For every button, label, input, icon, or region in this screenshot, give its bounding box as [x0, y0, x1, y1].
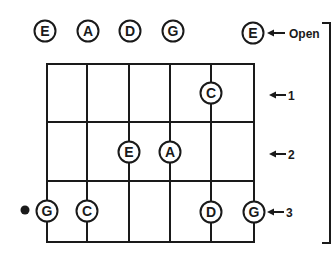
svg-text:G: G: [249, 204, 260, 220]
svg-text:G: G: [168, 23, 179, 39]
svg-text:G: G: [42, 203, 53, 219]
fret2-note-a: A: [160, 142, 181, 163]
fret1-note-c: C: [201, 83, 222, 104]
svg-text:A: A: [83, 23, 93, 39]
svg-text:D: D: [125, 23, 135, 39]
label-open: Open: [289, 27, 320, 41]
svg-text:C: C: [82, 203, 92, 219]
open-note-a: A: [78, 21, 99, 42]
fret3-note-g-high: G: [244, 202, 265, 223]
fret3-note-g-low: G: [37, 201, 58, 222]
arrow-open: [267, 30, 285, 37]
fret3-note-d: D: [201, 202, 222, 223]
svg-text:A: A: [165, 144, 175, 160]
svg-text:D: D: [206, 204, 216, 220]
arrow-fret1: [269, 92, 286, 99]
svg-text:E: E: [40, 23, 49, 39]
svg-text:C: C: [206, 85, 216, 101]
fretboard-diagram: E A D G E C E A G C D G: [0, 0, 336, 261]
open-note-d: D: [120, 21, 141, 42]
marker-dot: [21, 206, 30, 215]
open-note-e-high: E: [243, 23, 264, 44]
fret2-note-e: E: [119, 142, 140, 163]
open-note-g: G: [163, 21, 184, 42]
svg-text:E: E: [124, 144, 133, 160]
label-fret1: 1: [288, 89, 295, 103]
right-bracket: [322, 23, 330, 243]
svg-text:E: E: [248, 25, 257, 41]
label-fret3: 3: [286, 206, 293, 220]
label-fret2: 2: [288, 148, 295, 162]
arrow-fret2: [269, 151, 286, 158]
arrow-fret3: [267, 209, 284, 216]
fret3-note-c: C: [77, 201, 98, 222]
open-note-e-low: E: [35, 21, 56, 42]
